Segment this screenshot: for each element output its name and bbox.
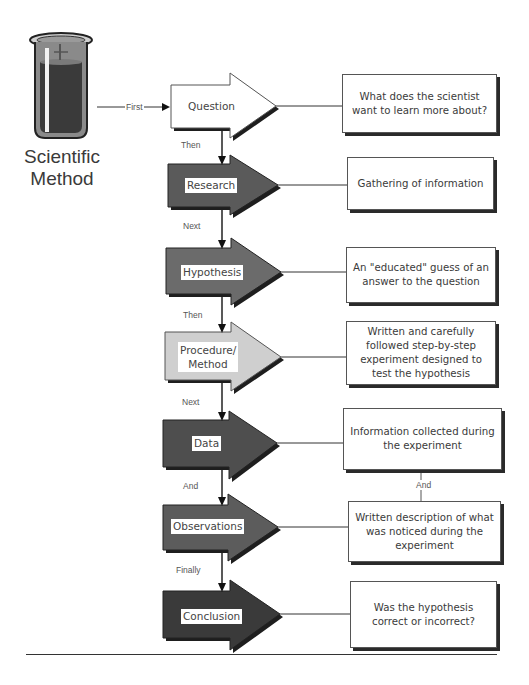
connector-label-research-hypothesis: Next — [182, 221, 201, 231]
step-label-observations: Observations — [171, 519, 244, 534]
step-label-research: Research — [185, 178, 237, 193]
entry-connector-label: First — [125, 102, 144, 112]
step-description-data: Information collected during the experim… — [343, 408, 502, 470]
scientific-method-diagram: Scientific Method First Question Researc… — [0, 0, 529, 685]
connector-label-question-research: Then — [180, 140, 201, 150]
diagram-title-line1: Scientific — [12, 146, 112, 168]
bottom-divider — [26, 654, 497, 655]
step-description-research: Gathering of information — [347, 157, 494, 210]
test-tube-icon — [30, 33, 92, 138]
diagram-title-line2: Method — [12, 168, 112, 190]
description-connector-label: And — [415, 480, 432, 490]
step-description-question: What does the scientist want to learn mo… — [342, 74, 497, 133]
step-description-conclusion: Was the hypothesis correct or incorrect? — [350, 581, 497, 648]
step-label-conclusion: Conclusion — [181, 609, 242, 624]
step-label-question: Question — [186, 99, 237, 114]
entry-connector-arrowhead — [162, 103, 170, 111]
step-description-hypothesis: An "educated" guess of an answer to the … — [346, 247, 496, 303]
connector-label-data-observations: And — [182, 481, 199, 491]
step-label-data: Data — [192, 436, 221, 451]
connector-label-procedure-data: Next — [181, 397, 200, 407]
connector-label-hypothesis-procedure: Then — [182, 310, 203, 320]
step-description-procedure: Written and carefully followed step-by-s… — [346, 321, 496, 385]
connector-label-observations-conclusion: Finally — [175, 565, 202, 575]
step-label-procedure-method: Procedure/ Method — [178, 342, 238, 372]
step-label-hypothesis: Hypothesis — [181, 265, 243, 280]
step-description-observations: Written description of what was noticed … — [348, 501, 501, 562]
